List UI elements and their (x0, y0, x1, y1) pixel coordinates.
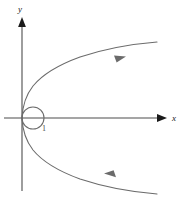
y-axis-label: y (17, 4, 22, 14)
figure-container: y x 1 (0, 0, 187, 197)
upper-branch-direction-arrow-icon (114, 56, 126, 63)
lower-branch-direction-arrow-icon (104, 170, 116, 177)
x-axis-arrowhead-icon (157, 114, 167, 122)
y-axis-arrowhead-icon (18, 17, 26, 27)
parabola-circle-diagram: y x 1 (0, 0, 187, 197)
circle-radius-label: 1 (42, 124, 46, 133)
x-axis-label: x (171, 113, 176, 123)
parabola-upper-branch (22, 42, 157, 118)
